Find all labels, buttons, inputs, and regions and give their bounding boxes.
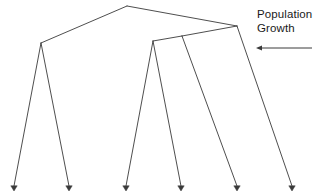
tree-branch <box>182 36 237 186</box>
tree-branch <box>237 26 292 186</box>
arrow-left-icon <box>256 45 312 50</box>
tree-branch <box>127 6 237 26</box>
tree-tip-arrowhead-icon <box>123 186 129 191</box>
figure-canvas: Population Growth <box>0 0 316 194</box>
tree-tip-arrowhead-icon <box>289 186 295 191</box>
tree-branch <box>182 26 237 36</box>
arrow-head <box>256 45 262 50</box>
tree-branch <box>14 43 41 186</box>
tree-branch <box>153 36 182 41</box>
tree-edge-group <box>14 6 292 186</box>
tree-tip-arrowhead-icon <box>11 186 17 191</box>
tree-branch <box>41 43 69 186</box>
tree-tip-marker-group <box>11 186 295 191</box>
tree-tip-arrowhead-icon <box>234 186 240 191</box>
tree-tip-arrowhead-icon <box>66 186 72 191</box>
tree-branch <box>153 41 181 186</box>
tree-branch <box>41 6 127 43</box>
tree-tip-arrowhead-icon <box>178 186 184 191</box>
population-growth-label-line-2: Growth <box>257 22 295 36</box>
tree-branch <box>126 41 153 186</box>
population-growth-label-line-1: Population <box>257 8 312 22</box>
